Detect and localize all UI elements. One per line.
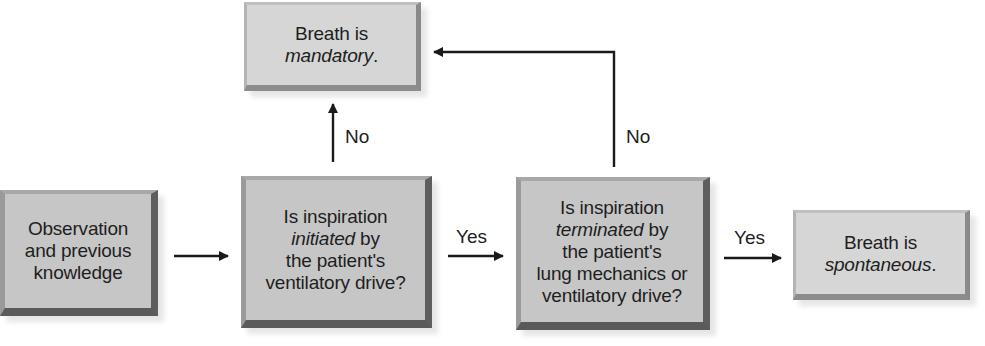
text-suffix: . — [931, 254, 936, 275]
text-line: knowledge — [33, 262, 122, 283]
node-initiated-text: Is inspiration initiated by the patient'… — [265, 206, 405, 294]
text-line: Breath is — [295, 23, 368, 44]
node-mandatory: Breath is mandatory. — [244, 2, 421, 91]
text-line: ventilatory drive? — [265, 272, 405, 293]
node-terminated-question: Is inspiration terminated by the patient… — [516, 177, 710, 330]
node-mandatory-text: Breath is mandatory. — [285, 23, 378, 67]
text-line: Is inspiration — [284, 206, 388, 227]
text-emphasis: initiated — [291, 228, 355, 249]
text-line: the patient's — [286, 250, 385, 271]
text-suffix: by — [355, 228, 380, 249]
text-line: Breath is — [844, 232, 917, 253]
text-emphasis: mandatory — [285, 45, 373, 66]
arrow-terminated-to-mandatory — [434, 52, 614, 167]
text-line: Observation — [28, 218, 128, 239]
edge-label-initiated-yes: Yes — [456, 226, 487, 248]
node-observation-text: Observation and previous knowledge — [25, 218, 131, 284]
text-emphasis: terminated — [556, 219, 644, 240]
node-initiated-question: Is inspiration initiated by the patient'… — [241, 176, 432, 328]
node-observation: Observation and previous knowledge — [0, 190, 158, 316]
text-line: and previous — [25, 240, 131, 261]
text-emphasis: spontaneous — [825, 254, 932, 275]
node-terminated-text: Is inspiration terminated by the patient… — [537, 197, 688, 307]
text-line: Is inspiration — [560, 197, 664, 218]
edge-label-terminated-yes: Yes — [734, 227, 765, 249]
node-spontaneous-text: Breath is spontaneous. — [825, 232, 937, 276]
text-line: the patient's — [562, 241, 661, 262]
node-spontaneous: Breath is spontaneous. — [793, 210, 970, 300]
edge-label-initiated-no: No — [345, 126, 369, 148]
text-line: ventilatory drive? — [542, 285, 682, 306]
text-suffix: by — [644, 219, 669, 240]
edge-label-terminated-no: No — [626, 126, 650, 148]
text-suffix: . — [373, 45, 378, 66]
text-line: lung mechanics or — [537, 263, 688, 284]
